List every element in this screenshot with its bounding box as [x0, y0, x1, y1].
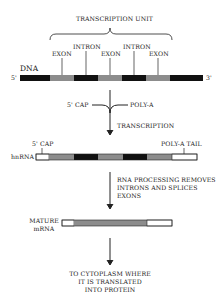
transcription-unit-brace [50, 28, 172, 40]
mature-mrna-bar [62, 220, 172, 226]
diagram-graphics [0, 0, 220, 304]
destination-line-1: TO CYTOPLASM WHERE [60, 270, 160, 278]
hnrna-label: hnRNA [11, 153, 34, 161]
processing-line-2: INTRONS AND SPLICES [117, 184, 198, 192]
processing-arrow [107, 172, 113, 209]
dna-five-prime: 5' [11, 74, 17, 82]
mature-line-1: MATURE [28, 217, 60, 225]
hnrna-bar [36, 154, 197, 160]
exon-label-1: EXON [52, 50, 72, 58]
intron-label-2: INTRON [123, 43, 151, 51]
processing-line-3: EXONS [117, 192, 141, 200]
dna-label: DNA [20, 65, 38, 73]
hnrna-tail-label: POLY-A TAIL [161, 140, 202, 148]
exon-label-2: EXON [101, 50, 121, 58]
intron-label-1: INTRON [73, 43, 101, 51]
transcription-unit-label: TRANSCRIPTION UNIT [76, 15, 153, 23]
polya-label: POLY-A [130, 101, 154, 109]
transcription-label: TRANSCRIPTION [117, 122, 174, 130]
exon-label-3: EXON [149, 50, 169, 58]
dna-bar [20, 75, 203, 81]
hnrna-cap-label: 5' CAP [32, 140, 54, 148]
destination-line-2: IT IS TRANSLATED [60, 278, 160, 286]
destination-line-3: INTO PROTEIN [60, 286, 160, 294]
cap-label: 5' CAP [67, 101, 89, 109]
mature-line-2: mRNA [28, 225, 60, 233]
cytoplasm-arrow [107, 238, 113, 265]
dna-three-prime: 3' [206, 74, 212, 82]
processing-line-1: RNA PROCESSING REMOVES [117, 176, 216, 184]
